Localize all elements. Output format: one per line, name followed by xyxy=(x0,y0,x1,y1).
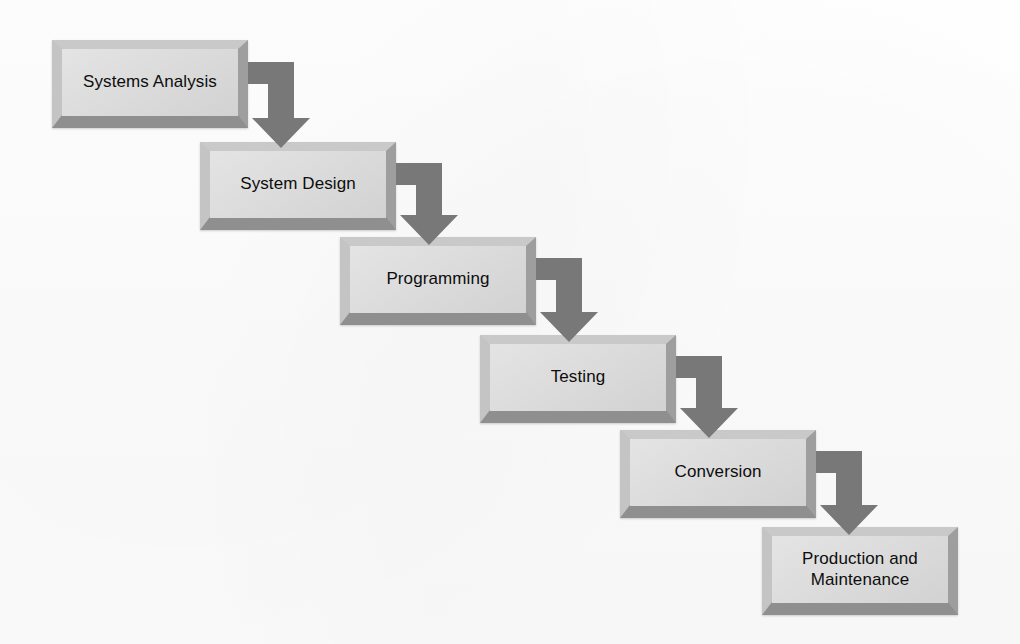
stage-box-system-design[interactable]: System Design xyxy=(200,142,396,230)
box-face: Production and Maintenance xyxy=(772,536,948,603)
stage-box-programming[interactable]: Programming xyxy=(340,237,536,325)
stage-label: Testing xyxy=(551,367,606,388)
stage-label: System Design xyxy=(240,174,356,195)
stage-label: Programming xyxy=(386,269,489,290)
arrow-analysis-to-design xyxy=(248,62,310,148)
box-face: System Design xyxy=(210,151,386,218)
arrow-design-to-programming xyxy=(396,163,458,245)
elbow-arrow-shape xyxy=(248,62,310,148)
waterfall-diagram: Systems Analysis System Design Programmi… xyxy=(0,0,1020,644)
stage-box-production-and-maintenance[interactable]: Production and Maintenance xyxy=(762,527,958,615)
stage-box-testing[interactable]: Testing xyxy=(480,335,676,423)
box-face: Systems Analysis xyxy=(62,49,238,116)
arrow-conversion-to-production xyxy=(816,451,878,535)
box-face: Testing xyxy=(490,344,666,411)
arrow-programming-to-testing xyxy=(536,258,598,342)
elbow-arrow-shape xyxy=(676,356,738,438)
stage-label: Conversion xyxy=(675,462,762,483)
stage-label: Production and Maintenance xyxy=(802,549,918,590)
stage-box-systems-analysis[interactable]: Systems Analysis xyxy=(52,40,248,128)
elbow-arrow-shape xyxy=(536,258,598,342)
elbow-arrow-shape xyxy=(816,451,878,535)
box-face: Conversion xyxy=(630,439,806,506)
stage-label: Systems Analysis xyxy=(83,72,217,93)
box-face: Programming xyxy=(350,246,526,313)
arrow-testing-to-conversion xyxy=(676,356,738,438)
stage-box-conversion[interactable]: Conversion xyxy=(620,430,816,518)
elbow-arrow-shape xyxy=(396,163,458,245)
